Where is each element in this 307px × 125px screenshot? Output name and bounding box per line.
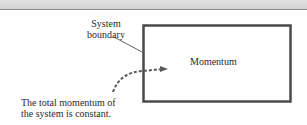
caption-line2: the system is constant. [21, 108, 116, 119]
boundary-label-line1: System [76, 18, 136, 29]
boundary-label: System boundary [76, 18, 136, 40]
caption: The total momentum of the system is cons… [21, 97, 116, 119]
box-label: Momentum [190, 56, 237, 67]
caption-line1: The total momentum of [21, 97, 116, 108]
boundary-label-line2: boundary [76, 29, 136, 40]
dashed-arrow [113, 69, 163, 92]
arrowhead-icon [160, 66, 168, 72]
